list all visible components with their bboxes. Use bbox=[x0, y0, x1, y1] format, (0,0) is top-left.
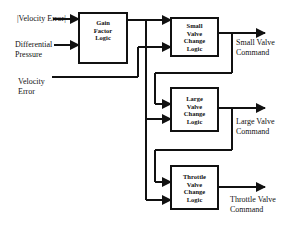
gain-line1: Gain bbox=[79, 19, 127, 27]
small-line1: Small bbox=[171, 22, 218, 30]
throttle-block-label: Throttle Valve Change Logic bbox=[171, 173, 218, 203]
large-line1: Large bbox=[171, 95, 218, 103]
throttle-line3: Change bbox=[171, 188, 218, 196]
small-line4: Logic bbox=[171, 45, 218, 53]
gain-line3: Logic bbox=[79, 34, 127, 42]
throttle-line4: Logic bbox=[171, 196, 218, 204]
throttle-line1: Throttle bbox=[171, 173, 218, 181]
input-label-differential: Differential bbox=[15, 40, 52, 49]
output-label-throttle-2: Command bbox=[230, 205, 263, 214]
throttle-line2: Valve bbox=[171, 181, 218, 189]
large-line3: Change bbox=[171, 110, 218, 118]
input-label-error: Error bbox=[18, 87, 35, 96]
small-line2: Valve bbox=[171, 30, 218, 38]
output-label-small-1: Small Valve bbox=[236, 38, 275, 47]
output-label-large-2: Command bbox=[236, 127, 269, 136]
large-block-label: Large Valve Change Logic bbox=[171, 95, 218, 125]
output-label-small-2: Command bbox=[236, 48, 269, 57]
output-label-large-1: Large Valve bbox=[236, 117, 275, 126]
output-label-throttle-1: Throttle Valve bbox=[230, 195, 276, 204]
input-label-pressure: Pressure bbox=[15, 50, 42, 59]
gain-block-label: Gain Factor Logic bbox=[79, 19, 127, 42]
small-line3: Change bbox=[171, 37, 218, 45]
input-label-abs-velocity-error: |Velocity Error| bbox=[17, 14, 66, 23]
large-line2: Valve bbox=[171, 103, 218, 111]
large-line4: Logic bbox=[171, 118, 218, 126]
input-label-velocity: Velocity bbox=[18, 77, 45, 86]
gain-line2: Factor bbox=[79, 27, 127, 35]
small-block-label: Small Valve Change Logic bbox=[171, 22, 218, 52]
diagram-canvas bbox=[0, 0, 290, 227]
